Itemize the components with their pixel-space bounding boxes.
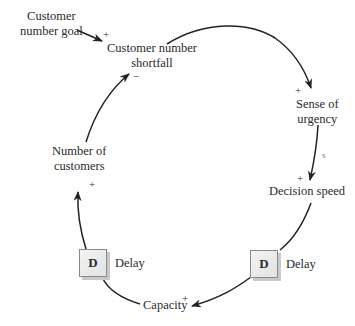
arrow-urgency-to-decision: [310, 125, 318, 180]
node-label-line: Sense of: [296, 97, 339, 112]
causal-loop-diagram: Customer number goal Customer number sho…: [0, 0, 355, 326]
node-capacity: Capacity: [143, 298, 187, 313]
delay-label-left: Delay: [115, 256, 145, 271]
node-label-line: customers: [52, 159, 107, 174]
arrow-customers-to-shortfall: [86, 74, 129, 142]
delay-label-right: Delay: [286, 257, 316, 272]
link-capacity-to-delay: [102, 277, 140, 304]
node-decision-speed: Decision speed: [269, 184, 345, 199]
node-customer-number-goal: Customer number goal: [20, 9, 83, 39]
node-label-line: Decision speed: [269, 184, 345, 199]
node-label-line: shortfall: [107, 56, 197, 71]
node-label-line: number goal: [20, 24, 83, 39]
polarity-shortfall-to-urgency: +: [295, 85, 301, 96]
node-number-of-customers: Number of customers: [52, 144, 107, 174]
link-decision-to-delay: [280, 203, 311, 250]
arrow-delay-to-capacity: [192, 277, 251, 306]
node-sense-of-urgency: Sense of urgency: [296, 97, 339, 127]
polarity-note-s: s: [322, 150, 326, 161]
node-label-line: Number of: [52, 144, 107, 159]
delay-box-right: D: [250, 250, 278, 278]
node-customer-number-shortfall: Customer number shortfall: [107, 41, 197, 71]
arrow-delay-to-customers: [78, 192, 86, 249]
polarity-goal-to-shortfall: +: [103, 29, 109, 40]
polarity-customers-to-shortfall: −: [133, 71, 139, 82]
polarity-capacity-to-customers: +: [89, 179, 95, 190]
node-label-line: urgency: [296, 112, 339, 127]
polarity-urgency-to-decision: +: [297, 173, 303, 184]
node-label-line: Customer: [20, 9, 83, 24]
polarity-decision-to-capacity: +: [182, 293, 188, 304]
node-label-line: Capacity: [143, 298, 187, 313]
node-label-line: Customer number: [107, 41, 197, 56]
delay-box-left: D: [79, 249, 107, 277]
